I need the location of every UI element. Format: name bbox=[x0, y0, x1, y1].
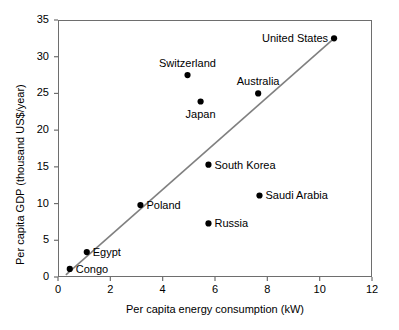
scatter-chart: 05101520253035 024681012 CongoEgyptPolan… bbox=[0, 0, 399, 330]
data-point-label: Japan bbox=[186, 108, 216, 120]
data-point-label: Congo bbox=[76, 263, 108, 275]
x-axis-title: Per capita energy consumption (kW) bbox=[58, 303, 372, 315]
y-tick-label: 10 bbox=[27, 198, 49, 209]
y-tick-label: 20 bbox=[27, 124, 49, 135]
data-point-label: Poland bbox=[146, 199, 180, 211]
x-tick-label: 8 bbox=[255, 284, 279, 295]
data-point-label: Australia bbox=[237, 75, 280, 87]
data-point-label: Switzerland bbox=[159, 57, 216, 69]
x-tick-label: 12 bbox=[360, 284, 384, 295]
data-point-label: Russia bbox=[214, 217, 248, 229]
y-axis-title: Per capita GDP (thousand US$/year) bbox=[14, 84, 26, 265]
data-point-label: South Korea bbox=[214, 159, 275, 171]
x-tick-label: 0 bbox=[46, 284, 70, 295]
data-point-label: United States bbox=[262, 32, 328, 44]
x-tick-label: 6 bbox=[203, 284, 227, 295]
x-tick-label: 4 bbox=[151, 284, 175, 295]
y-tick-label: 0 bbox=[27, 271, 49, 282]
data-point-label: Egypt bbox=[93, 246, 121, 258]
x-tick-label: 10 bbox=[308, 284, 332, 295]
y-tick-label: 25 bbox=[27, 87, 49, 98]
y-tick-label: 5 bbox=[27, 234, 49, 245]
y-tick-label: 35 bbox=[27, 14, 49, 25]
y-tick-label: 30 bbox=[27, 51, 49, 62]
data-point-label: Saudi Arabia bbox=[265, 189, 327, 201]
y-tick-label: 15 bbox=[27, 161, 49, 172]
x-tick-label: 2 bbox=[98, 284, 122, 295]
